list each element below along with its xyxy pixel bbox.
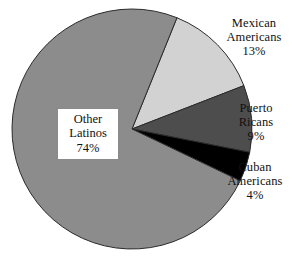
pie-label-puerto-ricans-line1: Puerto <box>210 101 302 115</box>
pie-label-cuban-americans: Cuban Americans 4% <box>206 160 304 202</box>
pie-label-puerto-ricans-value: 9% <box>210 129 302 143</box>
pie-label-other-latinos-value: 74% <box>62 141 114 155</box>
pie-label-mexican-americans-line1: Mexican <box>206 16 302 30</box>
pie-label-puerto-ricans: Puerto Ricans 9% <box>210 101 302 143</box>
pie-label-other-latinos-line2: Latinos <box>62 126 114 140</box>
pie-label-mexican-americans-value: 13% <box>206 44 302 58</box>
pie-label-other-latinos-line1: Other <box>62 112 114 126</box>
pie-label-mexican-americans-line2: Americans <box>206 30 302 44</box>
pie-chart: Mexican Americans 13% Puerto Ricans 9% C… <box>0 0 306 273</box>
pie-label-other-latinos: Other Latinos 74% <box>57 108 119 160</box>
pie-label-puerto-ricans-line2: Ricans <box>210 115 302 129</box>
pie-label-mexican-americans: Mexican Americans 13% <box>206 16 302 58</box>
pie-label-cuban-americans-value: 4% <box>206 188 304 202</box>
pie-label-cuban-americans-line2: Americans <box>206 174 304 188</box>
pie-label-cuban-americans-line1: Cuban <box>206 160 304 174</box>
